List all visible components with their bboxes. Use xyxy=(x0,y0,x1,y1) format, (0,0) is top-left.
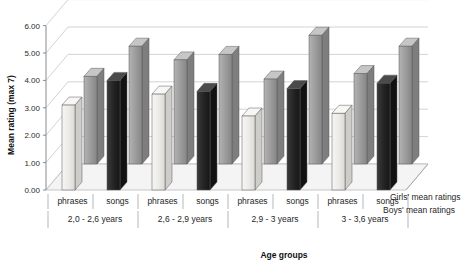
y-tick-label: 2.00 xyxy=(24,131,40,140)
x-group-label: 2,6 - 2,9 years xyxy=(158,214,212,224)
bar-girls-2 xyxy=(174,52,194,164)
bar-boys-0 xyxy=(62,97,82,190)
x-group-label: 2,9 - 3 years xyxy=(251,214,298,224)
y-tick-label: 0.00 xyxy=(24,186,40,195)
axis-layer xyxy=(43,26,46,190)
x-category-label: songs xyxy=(286,196,309,206)
x-group-label: 3 - 3,6 years xyxy=(341,214,388,224)
y-tick-label: 5.00 xyxy=(24,49,40,58)
x-group-label: 2,0 - 2,6 years xyxy=(68,214,122,224)
bar-boys-7 xyxy=(377,75,397,190)
x-axis-title: Age groups xyxy=(260,250,307,260)
x-category-label: phrases xyxy=(327,196,357,206)
x-category-label: phrases xyxy=(147,196,177,206)
x-category-label: songs xyxy=(106,196,129,206)
bar-girls-5 xyxy=(309,27,329,164)
bar-boys-1 xyxy=(107,72,127,190)
plot-floor xyxy=(46,164,428,190)
bar-girls-0 xyxy=(84,68,104,164)
bar-girls-3 xyxy=(219,46,239,164)
legend-label-girls: Girls' mean ratings xyxy=(390,192,461,202)
bar-boys-5 xyxy=(287,81,307,190)
bar-girls-7 xyxy=(399,38,419,164)
legend-label-boys: Boys' mean ratings xyxy=(383,205,455,215)
bar-girls-6 xyxy=(354,66,374,164)
bar-boys-3 xyxy=(197,83,217,190)
y-axis-title: Mean rating (max 7) xyxy=(6,75,16,155)
chart-canvas: 0.001.002.003.004.005.006.00 phrasessong… xyxy=(0,0,466,276)
x-category-label: songs xyxy=(196,196,219,206)
x-category-label: phrases xyxy=(57,196,87,206)
x-category-label: phrases xyxy=(237,196,267,206)
bar-boys-4 xyxy=(242,108,262,190)
bar-chart-figure: 0.001.002.003.004.005.006.00 phrasessong… xyxy=(0,0,466,276)
bar-boys-2 xyxy=(152,86,172,190)
y-axis-tick-labels: 0.001.002.003.004.005.006.00 xyxy=(24,22,40,195)
y-tick-label: 4.00 xyxy=(24,76,40,85)
y-tick-label: 1.00 xyxy=(24,159,40,168)
y-tick-label: 3.00 xyxy=(24,104,40,113)
y-tick-label: 6.00 xyxy=(24,22,40,31)
bar-girls-4 xyxy=(264,71,284,164)
x-axis-category-labels: phrasessongsphrasessongsphrasessongsphra… xyxy=(48,194,408,228)
bar-boys-6 xyxy=(332,105,352,190)
bar-girls-1 xyxy=(129,38,149,164)
